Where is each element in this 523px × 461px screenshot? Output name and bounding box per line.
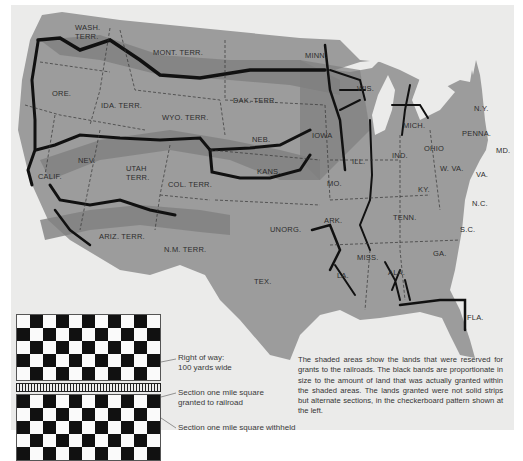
label-ohio: OHIO bbox=[424, 144, 444, 153]
label-wva: W. VA. bbox=[440, 164, 464, 173]
label-ida: IDA. TERR. bbox=[101, 101, 142, 110]
label-tex: TEX. bbox=[254, 277, 271, 286]
label-kans: KANS. bbox=[257, 167, 281, 176]
label-wis: WIS. bbox=[357, 84, 374, 93]
legend-withheld: Section one mile square withheld bbox=[178, 423, 295, 433]
label-la: LA. bbox=[337, 271, 349, 280]
label-ark: ARK. bbox=[324, 216, 342, 225]
label-miss: MISS. bbox=[357, 253, 378, 262]
label-mo: MO. bbox=[327, 179, 342, 188]
label-mich: MICH. bbox=[403, 121, 425, 130]
label-ala: ALA. bbox=[388, 268, 405, 277]
label-ga: GA. bbox=[433, 249, 447, 258]
label-ill: ILL. bbox=[352, 157, 365, 166]
legend-right-of-way-line2: 100 yards wide bbox=[178, 363, 232, 373]
legend-right-of-way-line1: Right of way: bbox=[178, 353, 232, 363]
label-ny: N.Y. bbox=[474, 104, 488, 113]
label-ore: ORE. bbox=[52, 89, 71, 98]
label-penna: PENNA. bbox=[462, 129, 491, 138]
label-col: COL. TERR. bbox=[168, 180, 212, 189]
legend-granted-line1: Section one mile square bbox=[178, 388, 264, 398]
legend-granted: Section one mile square granted to railr… bbox=[178, 388, 264, 408]
label-dak: DAK. TERR. bbox=[233, 96, 277, 105]
label-ind: IND. bbox=[392, 151, 408, 160]
label-sc: S.C. bbox=[460, 225, 475, 234]
label-ariz: ARIZ. TERR. bbox=[99, 232, 145, 241]
label-ky: KY. bbox=[418, 185, 430, 194]
right-of-way-strip bbox=[16, 383, 161, 392]
label-utah-terr: TERR. bbox=[126, 173, 150, 182]
label-nev: NEV. bbox=[78, 156, 96, 165]
checkerboard-top bbox=[16, 314, 161, 381]
label-nc: N.C. bbox=[472, 199, 488, 208]
label-fla: FLA. bbox=[467, 313, 484, 322]
label-minn: MINN. bbox=[305, 51, 327, 60]
label-wyo: WYO. TERR. bbox=[162, 113, 208, 122]
label-unorg: UNORG. bbox=[270, 225, 301, 234]
label-neb: NEB. bbox=[252, 135, 270, 144]
checkerboard-bottom bbox=[16, 394, 161, 461]
label-tenn: TENN. bbox=[393, 213, 417, 222]
label-wash: WASH. bbox=[75, 23, 100, 32]
legend-right-of-way: Right of way: 100 yards wide bbox=[178, 353, 232, 373]
label-wash-terr: TERR. bbox=[75, 32, 99, 41]
label-calif: CALIF. bbox=[38, 172, 62, 181]
label-utah: UTAH bbox=[126, 164, 147, 173]
label-nm: N.M. TERR. bbox=[164, 245, 206, 254]
legend-granted-line2: granted to railroad bbox=[178, 398, 264, 408]
label-va: VA. bbox=[476, 170, 488, 179]
checkerboard-legend bbox=[16, 314, 161, 461]
label-mont: MONT. TERR. bbox=[153, 48, 203, 57]
label-iowa: IOWA bbox=[312, 131, 333, 140]
label-md: MD. bbox=[496, 146, 510, 155]
map-caption: The shaded areas show the lands that wer… bbox=[298, 355, 503, 417]
